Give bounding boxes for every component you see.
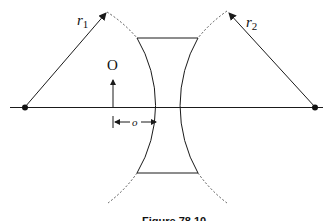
- radius-r1-label: r1: [77, 12, 88, 30]
- lens-diagram: r1 r2 O o Figure 78.10: [0, 0, 332, 221]
- lens-right-surface-extension-top: [198, 11, 227, 38]
- radius-r2-arrow: [229, 13, 315, 107]
- figure-caption: Figure 78.10: [142, 215, 206, 221]
- lens-right-surface-extension-bottom: [198, 173, 227, 203]
- lens-left-surface-extension-bottom: [108, 173, 137, 203]
- center-of-curvature-left: [22, 105, 28, 111]
- radius-r1-arrow: [25, 13, 106, 107]
- object-distance-label: o: [132, 116, 138, 128]
- lens-right-surface: [180, 38, 198, 173]
- lens-left-surface: [137, 38, 156, 173]
- object-label: O: [107, 57, 118, 73]
- radius-r2-label: r2: [246, 14, 257, 32]
- lens-left-surface-extension-top: [107, 12, 137, 38]
